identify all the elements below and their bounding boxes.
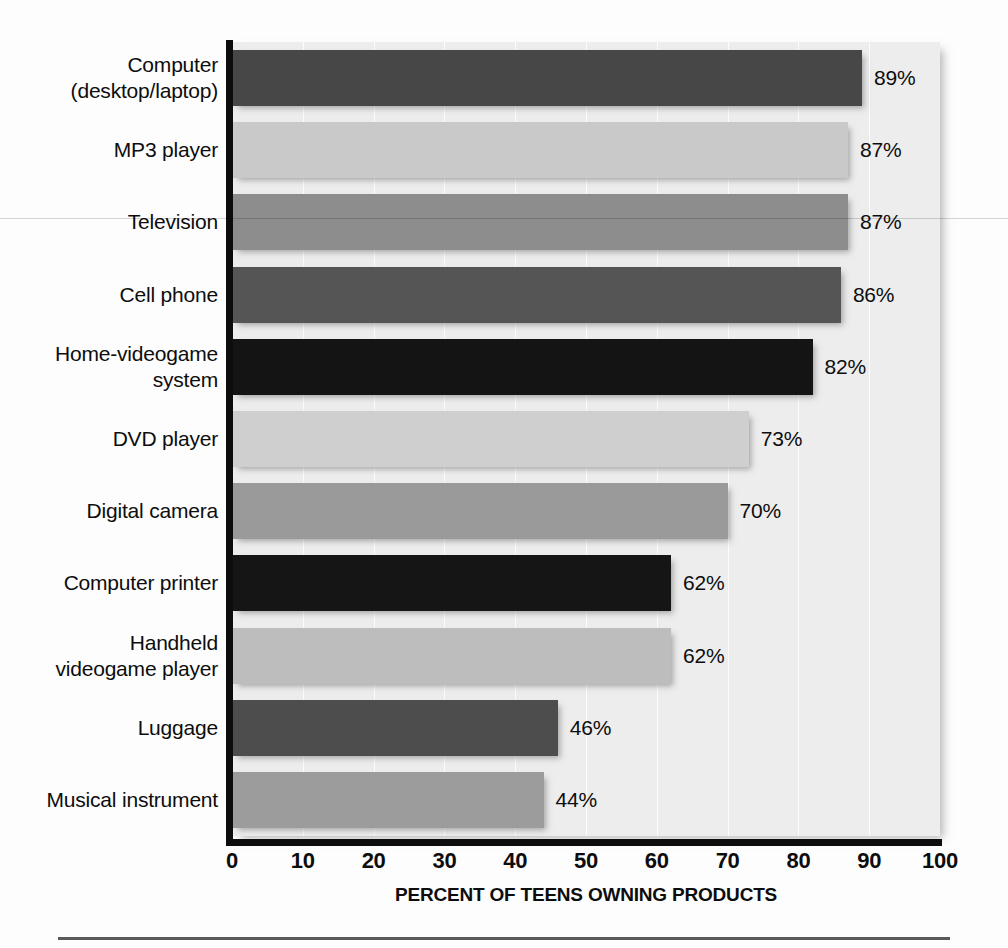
- category-labels: Computer (desktop/laptop)MP3 playerTelev…: [0, 42, 218, 836]
- bar-value-label: 62%: [683, 571, 724, 595]
- bar: [232, 772, 544, 828]
- y-axis-line: [226, 40, 233, 846]
- x-tick-label: 70: [716, 848, 740, 874]
- bar: [232, 628, 671, 684]
- category-label: MP3 player: [4, 137, 218, 163]
- category-label: Musical instrument: [4, 787, 218, 813]
- bar-row: 62%: [232, 628, 940, 684]
- bar-row: 46%: [232, 700, 940, 756]
- category-label: Luggage: [4, 715, 218, 741]
- bar-value-label: 82%: [825, 355, 866, 379]
- bar: [232, 411, 749, 467]
- bar-value-label: 86%: [853, 283, 894, 307]
- category-label: Digital camera: [4, 498, 218, 524]
- plot-area: 89%87%87%86%82%73%70%62%62%46%44%: [232, 42, 940, 836]
- bar-row: 87%: [232, 122, 940, 178]
- bar: [232, 267, 841, 323]
- bar-row: 62%: [232, 555, 940, 611]
- x-tick-label: 80: [786, 848, 810, 874]
- x-tick-label: 0: [226, 848, 238, 874]
- category-label: DVD player: [4, 426, 218, 452]
- bar-value-label: 62%: [683, 644, 724, 668]
- category-label: Computer printer: [4, 570, 218, 596]
- bar-row: 70%: [232, 483, 940, 539]
- bar-value-label: 87%: [860, 210, 901, 234]
- x-tick-label: 50: [574, 848, 598, 874]
- footer-rule: [58, 937, 950, 940]
- category-label: Home-videogame system: [4, 341, 218, 393]
- category-label: Computer (desktop/laptop): [4, 52, 218, 104]
- bar-value-label: 89%: [874, 66, 915, 90]
- bar-row: 86%: [232, 267, 940, 323]
- x-tick-label: 90: [857, 848, 881, 874]
- x-tick-label: 100: [922, 848, 958, 874]
- bar-row: 44%: [232, 772, 940, 828]
- bar-row: 82%: [232, 339, 940, 395]
- x-tick-label: 40: [503, 848, 527, 874]
- bar: [232, 194, 848, 250]
- x-axis-tick-labels: 0102030405060708090100: [0, 848, 1008, 882]
- bar-value-label: 87%: [860, 138, 901, 162]
- bar-row: 89%: [232, 50, 940, 106]
- category-label: Television: [4, 209, 218, 235]
- bar: [232, 483, 728, 539]
- bar-value-label: 70%: [740, 499, 781, 523]
- bar: [232, 555, 671, 611]
- bar-value-label: 46%: [570, 716, 611, 740]
- x-tick-label: 30: [432, 848, 456, 874]
- bar-chart-figure: 89%87%87%86%82%73%70%62%62%46%44% Comput…: [0, 0, 1008, 948]
- category-label: Cell phone: [4, 282, 218, 308]
- bar-value-label: 44%: [556, 788, 597, 812]
- bar-row: 87%: [232, 194, 940, 250]
- bar: [232, 122, 848, 178]
- x-axis-title: PERCENT OF TEENS OWNING PRODUCTS: [232, 884, 940, 906]
- bar: [232, 50, 862, 106]
- bar: [232, 700, 558, 756]
- x-tick-label: 20: [362, 848, 386, 874]
- x-tick-label: 60: [645, 848, 669, 874]
- x-tick-label: 10: [291, 848, 315, 874]
- category-label: Handheld videogame player: [4, 630, 218, 682]
- bar-value-label: 73%: [761, 427, 802, 451]
- bar-row: 73%: [232, 411, 940, 467]
- x-axis-line: [226, 839, 942, 846]
- bar: [232, 339, 813, 395]
